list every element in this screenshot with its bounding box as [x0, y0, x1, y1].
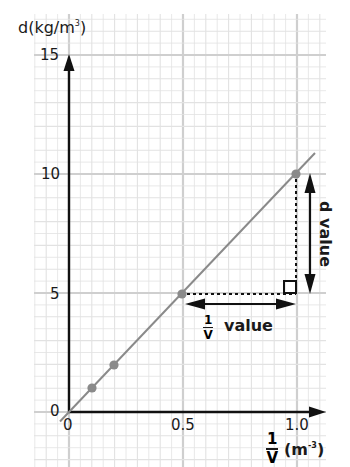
best-fit-line [60, 153, 315, 422]
x-tick-1.0: 1.0 [285, 418, 309, 433]
inverse-v-value-double-arrow [185, 299, 296, 310]
data-point [109, 360, 118, 369]
data-point [177, 289, 186, 298]
x-axis-label-fraction: 1 V [266, 432, 278, 466]
x-axis-unit: (m-3) [284, 442, 324, 458]
inverse-v-fraction: 1 V [203, 314, 213, 341]
arrow-up-icon [305, 173, 316, 193]
data-point [291, 169, 300, 178]
y-axis-label: d(kg/m3) [18, 20, 86, 36]
x-tick-0: 0 [63, 418, 73, 433]
inverse-v-value-label: value [224, 318, 273, 334]
y-tick-0: 0 [50, 404, 60, 419]
y-axis-arrow-icon [64, 54, 75, 71]
y-tick-5: 5 [50, 287, 60, 302]
arrow-down-icon [305, 274, 316, 294]
density-chart [0, 0, 350, 467]
y-tick-15: 15 [40, 48, 59, 63]
grid [34, 14, 326, 467]
data-point [87, 383, 96, 392]
y-tick-10: 10 [41, 167, 60, 182]
d-value-label: d value [317, 199, 333, 269]
arrow-left-icon [185, 299, 205, 310]
x-axis-arrow-icon [309, 407, 326, 418]
x-tick-0.5: 0.5 [171, 418, 195, 433]
